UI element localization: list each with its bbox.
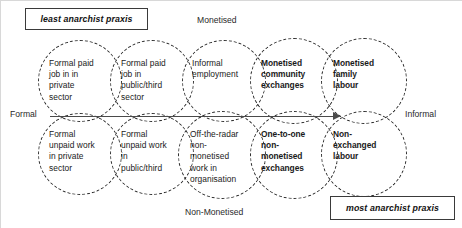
cell-label-bottom-3: Off-the-radar non- monetised work in org… bbox=[190, 129, 262, 185]
cell-label-top-4: Monetised community exchanges bbox=[261, 58, 333, 92]
axis-label-non-monetised: Non-Monetised bbox=[185, 207, 243, 217]
formal-informal-axis-arrowhead bbox=[333, 112, 341, 120]
cell-label-top-3: Informal employment bbox=[192, 58, 262, 80]
cell-label-top-2: Formal paid job in public/third sector bbox=[121, 58, 191, 103]
formal-informal-axis-line bbox=[50, 116, 335, 117]
cell-label-top-1: Formal paid job in in private sector bbox=[49, 58, 119, 103]
axis-label-monetised: Monetised bbox=[197, 15, 237, 25]
most-anarchist-praxis-box: most anarchist praxis bbox=[330, 196, 455, 220]
cell-label-top-5: Monetised family labour bbox=[333, 58, 403, 92]
diagram-canvas: Formal paid job in in private sector For… bbox=[0, 0, 462, 228]
axis-label-formal: Formal bbox=[10, 109, 37, 119]
axis-label-informal: Informal bbox=[405, 109, 436, 119]
least-anarchist-praxis-box: least anarchist praxis bbox=[25, 8, 148, 30]
page-edge-left bbox=[0, 0, 1, 228]
cell-label-bottom-1: Formal unpaid work in private sector bbox=[49, 129, 119, 174]
cell-label-bottom-5: Non- exchanged labour bbox=[333, 129, 403, 163]
page-edge-top bbox=[0, 0, 462, 1]
cell-label-bottom-2: Formal unpaid work in public/third bbox=[121, 129, 191, 174]
cell-label-bottom-4: One-to-one non- monetised exchanges bbox=[261, 129, 333, 174]
